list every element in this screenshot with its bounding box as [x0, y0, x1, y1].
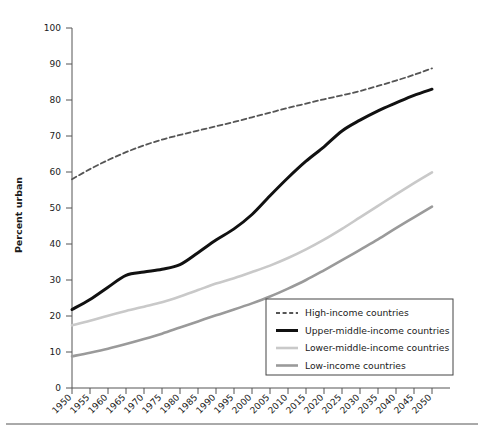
y-tick-label: 80: [50, 95, 62, 105]
y-tick-label: 90: [50, 59, 62, 69]
legend-label-0: High-income countries: [305, 307, 409, 318]
y-tick-label: 20: [50, 311, 62, 321]
y-axis-title: Percent urban: [13, 177, 24, 253]
y-tick-label: 60: [50, 167, 62, 177]
legend-label-2: Lower-middle-income countries: [305, 342, 449, 353]
y-tick-label: 70: [50, 131, 62, 141]
legend: High-income countriesUpper-middle-income…: [266, 299, 453, 375]
y-tick-label: 0: [55, 383, 61, 393]
urbanization-line-chart: 0102030405060708090100 19501955196019651…: [0, 0, 484, 438]
y-tick-label: 100: [44, 23, 61, 33]
legend-label-3: Low-income countries: [305, 360, 406, 371]
y-tick-label: 50: [50, 203, 62, 213]
legend-label-1: Upper-middle-income countries: [305, 325, 450, 336]
x-axis-ticks: [72, 388, 432, 394]
y-tick-label: 40: [50, 239, 62, 249]
figure-container: 0102030405060708090100 19501955196019651…: [0, 0, 484, 438]
y-tick-label: 30: [50, 275, 62, 285]
y-tick-label: 10: [50, 347, 62, 357]
